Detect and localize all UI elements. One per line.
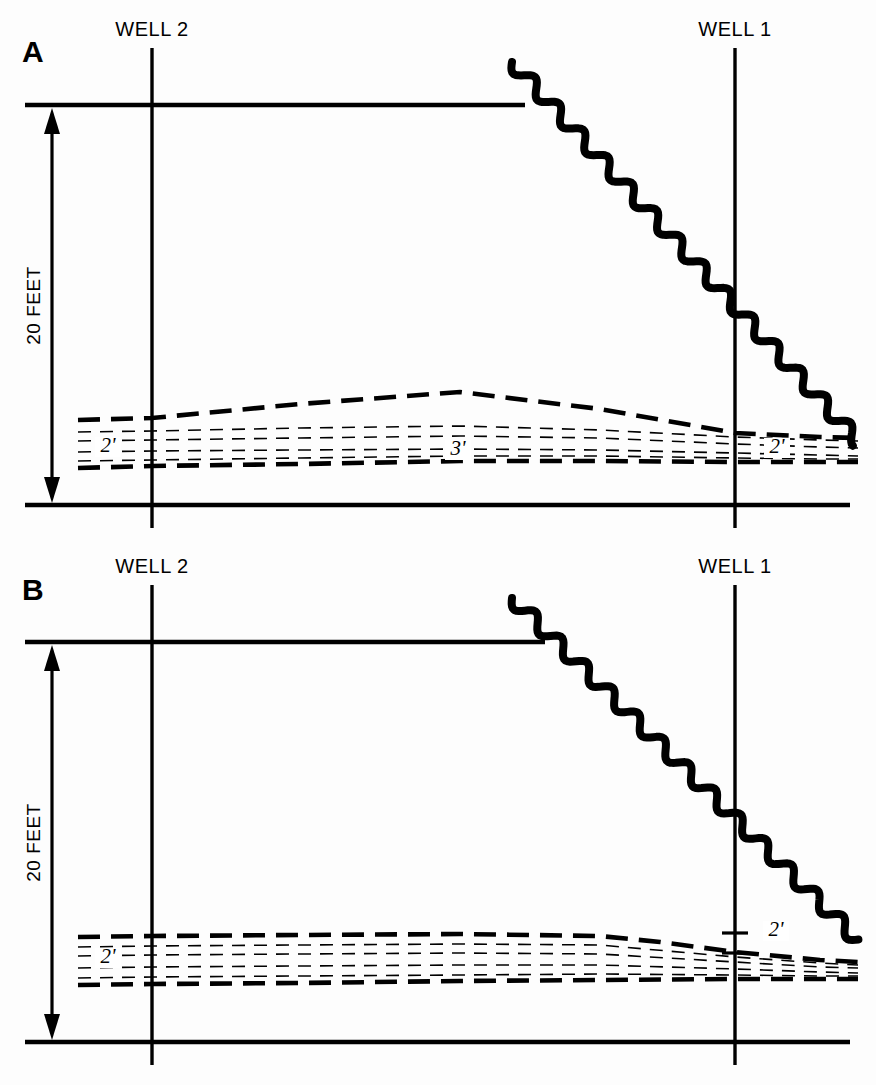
panel-content-B: WELL 2WELL 120 FEETB2'2' — [22, 555, 858, 1065]
panel-a-cross-section: WELL 2WELL 120 FEETA2'3'2' — [0, 0, 876, 545]
panel-letter-A: A — [22, 35, 44, 68]
water-table-wavy-line — [512, 598, 859, 940]
unit-bottom-boundary — [78, 979, 858, 985]
vertical-scale-arrow-B — [44, 645, 60, 1040]
well-label-2: WELL 1 — [698, 18, 771, 40]
scale-arrow-head-up — [44, 645, 60, 671]
unit-bottom-boundary — [78, 461, 858, 468]
water-table-wavy-line — [511, 62, 852, 446]
thickness-label-3: 2' — [770, 434, 786, 458]
well-label-1: WELL 2 — [115, 18, 188, 40]
figure-caption — [0, 1063, 876, 1085]
figure-cross-sections: WELL 2WELL 120 FEETA2'3'2' WELL 2WELL 12… — [0, 0, 876, 1085]
vertical-scale-label: 20 FEET — [23, 803, 44, 881]
panel-b-cross-section: WELL 2WELL 120 FEETB2'2' — [0, 538, 876, 1083]
panel-letter-B: B — [22, 573, 44, 606]
thickness-label-2: 2' — [769, 917, 785, 941]
scale-arrow-head-down — [44, 477, 60, 503]
unit-inner-dash-3 — [78, 965, 858, 973]
thickness-label-2: 3' — [450, 436, 467, 460]
vertical-scale-arrow-A — [44, 108, 60, 503]
vertical-scale-label: 20 FEET — [23, 266, 44, 344]
well-label-2: WELL 1 — [698, 555, 771, 577]
unit-inner-dash-2 — [78, 953, 858, 968]
panel-content-A: WELL 2WELL 120 FEETA2'3'2' — [22, 18, 858, 528]
aquifer-unit-B — [78, 934, 858, 985]
unit-top-boundary — [78, 392, 858, 438]
thickness-label-1: 2' — [101, 433, 117, 457]
thickness-label-1: 2' — [101, 944, 117, 968]
scale-arrow-head-down — [44, 1014, 60, 1040]
well-label-1: WELL 2 — [115, 555, 188, 577]
scale-arrow-head-up — [44, 108, 60, 134]
